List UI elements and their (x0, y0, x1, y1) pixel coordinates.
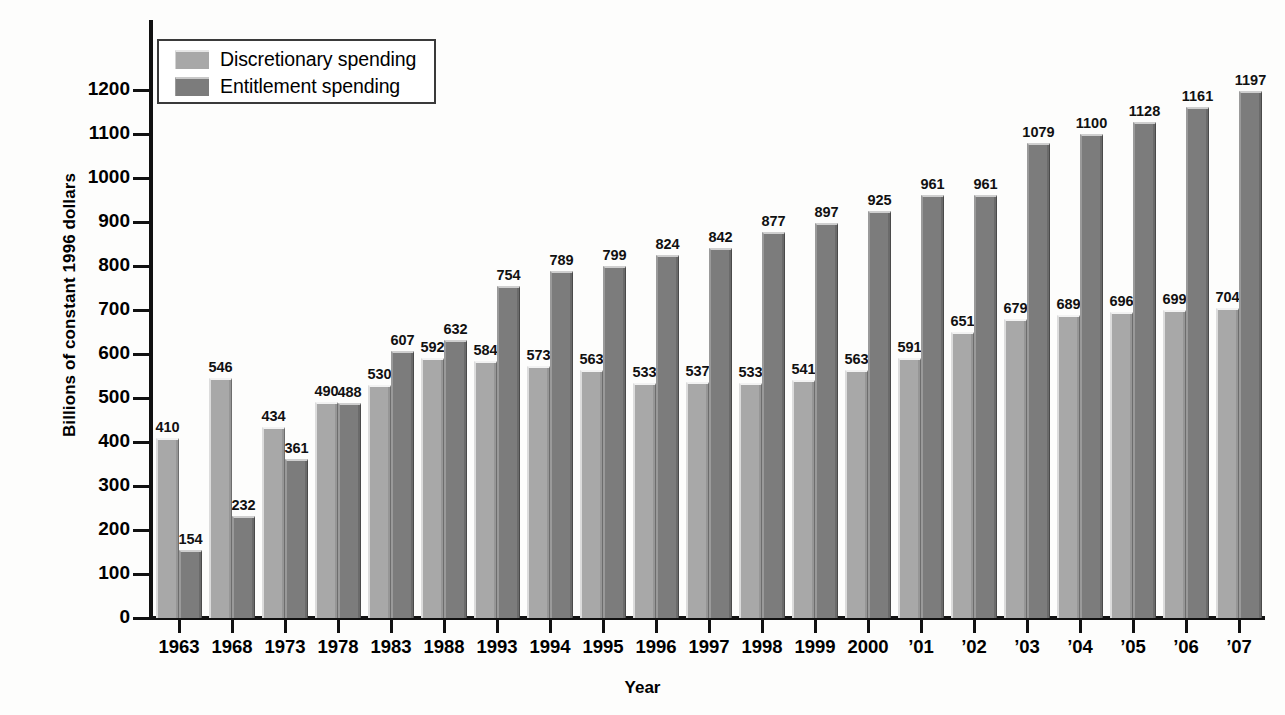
bar-discretionary (421, 358, 444, 618)
bar-entitlement (338, 403, 361, 618)
bar-discretionary (1110, 312, 1133, 618)
y-axis-tick (133, 309, 151, 312)
bar-entitlement (1080, 134, 1103, 618)
x-axis-tick (761, 620, 764, 633)
y-axis-tick (133, 485, 151, 488)
bar-entitlement (497, 286, 520, 618)
x-axis-tick-label: 1995 (573, 636, 633, 658)
y-axis-tick (133, 573, 151, 576)
y-axis-tick-label: 1100 (58, 122, 130, 144)
bar-entitlement (921, 195, 944, 618)
x-axis-tick-label: ’05 (1103, 636, 1163, 658)
bar-value-entitlement: 1100 (1071, 115, 1112, 131)
x-axis-tick-label: 1998 (732, 636, 792, 658)
x-axis-tick (814, 620, 817, 633)
legend-item-discretionary: Discretionary spending (159, 46, 434, 73)
x-axis-tick (496, 620, 499, 633)
bar-entitlement (1186, 107, 1209, 618)
bar-value-entitlement: 961 (965, 176, 1006, 192)
x-axis-tick-label: 1973 (255, 636, 315, 658)
bar-discretionary (1163, 310, 1186, 618)
bar-value-entitlement: 961 (912, 176, 953, 192)
y-axis-tick-label: 1000 (58, 166, 130, 188)
y-axis-tick (133, 441, 151, 444)
bar-value-entitlement: 154 (170, 531, 211, 547)
bar-discretionary (686, 382, 709, 618)
bar-value-entitlement: 1128 (1124, 103, 1165, 119)
x-axis-tick-label: 1988 (414, 636, 474, 658)
x-axis-tick-label: ’04 (1050, 636, 1110, 658)
y-axis-tick-label: 200 (58, 518, 130, 540)
y-axis-tick-label: 600 (58, 342, 130, 364)
bar-entitlement (1027, 143, 1050, 618)
bar-discretionary (951, 332, 974, 618)
bar-entitlement (550, 271, 573, 618)
legend-label-discretionary: Discretionary spending (220, 50, 416, 70)
bar-entitlement (868, 211, 891, 618)
bar-value-entitlement: 824 (647, 236, 688, 252)
bar-discretionary (792, 380, 815, 618)
bar-value-entitlement: 232 (223, 497, 264, 513)
x-axis-tick-label: ’06 (1156, 636, 1216, 658)
bar-value-discretionary: 434 (253, 408, 294, 424)
legend-label-entitlement: Entitlement spending (220, 77, 400, 97)
legend-swatch-discretionary-icon (175, 50, 209, 69)
y-axis-tick (133, 133, 151, 136)
bar-discretionary (527, 366, 550, 618)
bar-entitlement (815, 223, 838, 618)
y-axis-tick-label: 1200 (58, 78, 130, 100)
bar-value-entitlement: 488 (329, 384, 370, 400)
x-axis-tick-label: 1993 (467, 636, 527, 658)
x-axis-tick-label: 1963 (149, 636, 209, 658)
y-axis-tick (133, 265, 151, 268)
y-axis-tick-label: 800 (58, 254, 130, 276)
y-axis-tick-label: 500 (58, 386, 130, 408)
bar-value-entitlement: 1079 (1018, 124, 1059, 140)
x-axis-tick (231, 620, 234, 633)
bar-value-entitlement: 361 (276, 440, 317, 456)
x-axis-tick (390, 620, 393, 633)
bar-entitlement (603, 266, 626, 618)
y-axis-tick (133, 89, 151, 92)
bar-entitlement (974, 195, 997, 618)
x-axis-tick (602, 620, 605, 633)
y-axis-tick (133, 221, 151, 224)
y-axis-tick-label: 700 (58, 298, 130, 320)
x-axis-tick-label: 2000 (838, 636, 898, 658)
y-axis-tick-label: 0 (58, 606, 130, 628)
bar-entitlement (656, 255, 679, 618)
x-axis-tick (549, 620, 552, 633)
y-axis-tick (133, 529, 151, 532)
bar-discretionary (315, 402, 338, 618)
x-axis-tick (655, 620, 658, 633)
bar-discretionary (633, 383, 656, 618)
x-axis-tick (337, 620, 340, 633)
bar-value-discretionary: 546 (200, 359, 241, 375)
x-axis-tick-label: ’02 (944, 636, 1004, 658)
bar-entitlement (232, 516, 255, 618)
legend-swatch-entitlement-icon (175, 77, 209, 96)
bar-entitlement (391, 351, 414, 618)
bar-value-entitlement: 754 (488, 267, 529, 283)
x-axis-tick-label: ’03 (997, 636, 1057, 658)
bar-discretionary (1216, 308, 1239, 618)
x-axis-tick-label: ’01 (891, 636, 951, 658)
bar-entitlement (444, 340, 467, 618)
bar-value-entitlement: 842 (700, 229, 741, 245)
y-axis-tick (133, 397, 151, 400)
bar-entitlement (179, 550, 202, 618)
bar-entitlement (1239, 91, 1262, 618)
x-axis-tick (1079, 620, 1082, 633)
bar-value-entitlement: 877 (753, 213, 794, 229)
x-axis-tick (178, 620, 181, 633)
x-axis-tick (920, 620, 923, 633)
bar-discretionary (368, 385, 391, 618)
x-axis-tick-label: 1983 (361, 636, 421, 658)
x-axis-tick (1132, 620, 1135, 633)
x-axis-tick-label: 1978 (308, 636, 368, 658)
x-axis-tick (443, 620, 446, 633)
bar-discretionary (474, 361, 497, 618)
x-axis-tick (284, 620, 287, 633)
bar-value-entitlement: 789 (541, 252, 582, 268)
x-axis-tick-label: ’07 (1209, 636, 1269, 658)
